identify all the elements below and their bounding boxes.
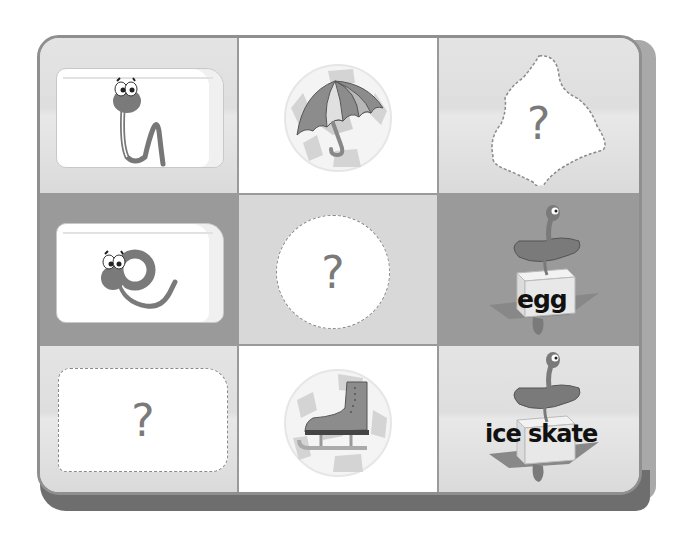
question-mark: ? — [131, 395, 154, 446]
snake-e-icon — [57, 224, 225, 324]
ice-skate-icon — [283, 368, 393, 478]
cell-r3-c1[interactable]: ? — [40, 346, 239, 492]
cell-r1-c1[interactable] — [40, 38, 239, 195]
question-mark: ? — [527, 98, 550, 149]
dragon-icon — [449, 346, 629, 492]
cell-r3-c3[interactable]: ice skate — [439, 346, 639, 492]
rounded-rect-placeholder[interactable]: ? — [58, 368, 228, 472]
word-label: egg — [517, 285, 567, 314]
dragon-icon — [449, 195, 629, 345]
cell-r2-c3[interactable]: egg — [439, 195, 639, 346]
question-mark: ? — [321, 247, 344, 298]
snake-u-icon — [57, 69, 225, 169]
board-grid: ? ? — [40, 38, 639, 492]
umbrella-icon — [283, 63, 393, 173]
cell-r3-c2[interactable] — [239, 346, 439, 492]
circle-placeholder[interactable]: ? — [276, 215, 390, 329]
game-board: ? ? — [37, 35, 642, 495]
cell-r1-c2[interactable] — [239, 38, 439, 195]
cell-r2-c2[interactable]: ? — [239, 195, 439, 346]
ice-block — [56, 223, 224, 323]
cell-r1-c3[interactable]: ? — [439, 38, 639, 195]
ice-block — [56, 68, 224, 168]
cell-r2-c1[interactable] — [40, 195, 239, 346]
word-label: ice skate — [485, 420, 597, 448]
